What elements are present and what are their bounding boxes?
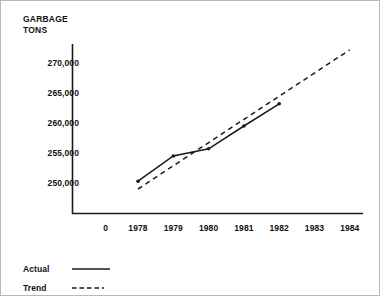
data-point bbox=[277, 102, 281, 106]
legend-item-actual: Actual bbox=[23, 263, 111, 275]
legend-label-trend: Trend bbox=[23, 283, 67, 293]
legend-label-actual: Actual bbox=[23, 264, 67, 274]
legend-swatch-dashed bbox=[71, 284, 111, 292]
data-point bbox=[242, 124, 246, 128]
plot-area bbox=[1, 1, 380, 296]
trend-line bbox=[138, 50, 350, 189]
legend-swatch-solid bbox=[71, 265, 111, 273]
data-point bbox=[136, 179, 140, 183]
data-point bbox=[207, 147, 211, 151]
chart-figure: GARBAGETONS 250,000255,000260,000265,000… bbox=[0, 0, 380, 296]
legend-item-trend: Trend bbox=[23, 282, 111, 294]
data-point bbox=[172, 154, 176, 158]
